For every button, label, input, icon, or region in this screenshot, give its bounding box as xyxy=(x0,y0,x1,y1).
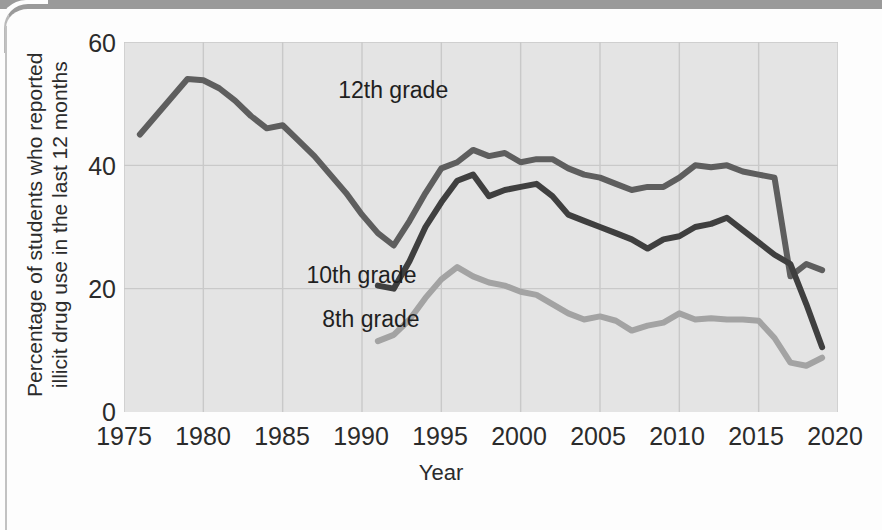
series-line-12th-grade xyxy=(140,79,822,276)
x-tick-1985: 1985 xyxy=(237,424,327,449)
plot-area xyxy=(124,42,838,412)
x-tick-2005: 2005 xyxy=(553,424,643,449)
series-label-10th-grade: 10th grade xyxy=(306,262,416,289)
data-lines-layer xyxy=(140,79,822,366)
x-tick-2020: 2020 xyxy=(790,424,880,449)
x-tick-1990: 1990 xyxy=(316,424,406,449)
x-axis-title: Year xyxy=(0,460,882,486)
x-tick-1980: 1980 xyxy=(158,424,248,449)
series-layer xyxy=(124,42,838,412)
series-label-8th-grade: 8th grade xyxy=(322,306,419,333)
x-tick-1995: 1995 xyxy=(395,424,485,449)
y-axis-title-line2: illicit drug use in the last 12 months xyxy=(48,25,73,425)
y-axis-title: Percentage of students who reported illi… xyxy=(23,25,73,425)
line-chart-figure: 0 20 40 60 Percentage of students who re… xyxy=(0,0,882,530)
x-tick-2015: 2015 xyxy=(711,424,801,449)
x-tick-2000: 2000 xyxy=(474,424,564,449)
scanned-figure-page: 0 20 40 60 Percentage of students who re… xyxy=(0,0,882,530)
x-tick-1975: 1975 xyxy=(79,424,169,449)
series-label-12th-grade: 12th grade xyxy=(338,77,448,104)
x-tick-2010: 2010 xyxy=(632,424,722,449)
y-axis-title-line1: Percentage of students who reported xyxy=(23,25,48,425)
